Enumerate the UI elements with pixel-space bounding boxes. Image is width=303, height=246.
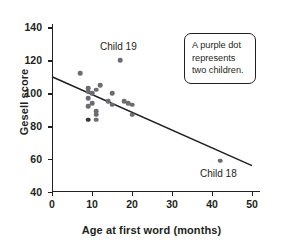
y-axis-title: Gesell score xyxy=(18,42,30,162)
callout-note: A purple dot represents two children. xyxy=(184,33,256,84)
y-tick-label: 60 xyxy=(30,154,42,165)
data-point xyxy=(110,91,115,96)
chart-screenshot: 406080100120140 01020304050 Child 19 Chi… xyxy=(0,0,303,246)
data-point xyxy=(94,117,99,122)
callout-line-2: represents xyxy=(192,52,249,65)
data-point-double xyxy=(86,117,91,122)
child-18-label: Child 18 xyxy=(200,169,237,179)
data-point xyxy=(218,158,223,163)
data-point xyxy=(130,102,135,107)
x-tick-label: 40 xyxy=(206,199,218,210)
data-point xyxy=(90,101,95,106)
x-tick-label: 10 xyxy=(86,199,98,210)
callout-line-1: A purple dot xyxy=(192,39,249,52)
x-tick-label: 20 xyxy=(126,199,138,210)
data-point xyxy=(94,112,99,117)
data-point xyxy=(110,102,115,107)
x-tick-label: 0 xyxy=(49,199,55,210)
x-tick-label: 50 xyxy=(246,199,258,210)
data-point xyxy=(86,96,91,101)
y-tick-label: 80 xyxy=(30,121,42,132)
data-point xyxy=(78,71,83,76)
data-point xyxy=(98,83,103,88)
data-point xyxy=(118,58,123,63)
x-tick-label: 30 xyxy=(166,199,178,210)
y-tick-label: 40 xyxy=(30,187,42,198)
callout-line-3: two children. xyxy=(192,64,249,77)
y-tick-label: 140 xyxy=(24,22,42,33)
x-axis-title: Age at first word (months) xyxy=(0,224,303,236)
child-19-label: Child 19 xyxy=(100,42,137,52)
data-point xyxy=(94,88,99,93)
data-point xyxy=(130,112,135,117)
